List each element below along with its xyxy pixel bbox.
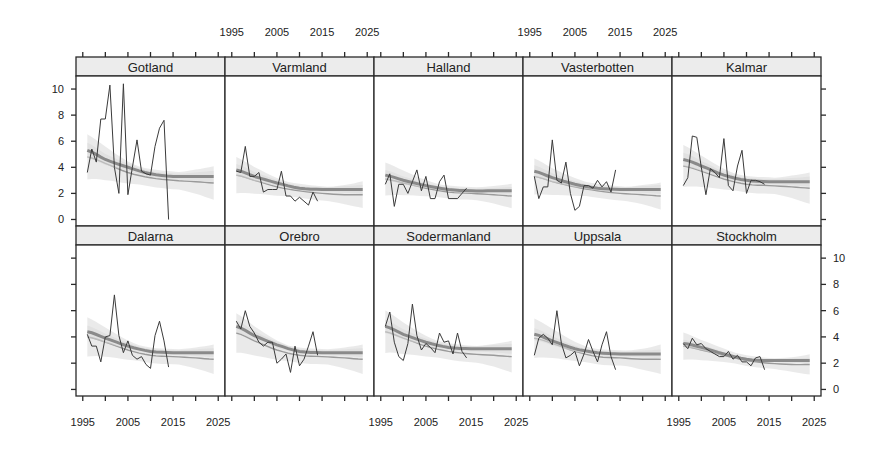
y-tick-label: 10: [833, 252, 845, 264]
panel-title: Kalmar: [726, 60, 768, 75]
panel-stockholm: Stockholm: [672, 226, 821, 396]
y-tick-label: 4: [58, 161, 64, 173]
x-tick-label: 2005: [265, 26, 289, 38]
x-tick-label: 2015: [608, 26, 632, 38]
panel-gotland: Gotland: [76, 57, 225, 226]
panel-title: Sodermanland: [406, 229, 491, 244]
panel-vasterbotten: Vasterbotten: [523, 57, 672, 226]
x-tick-label: 1995: [518, 26, 542, 38]
x-tick-label: 2025: [653, 26, 677, 38]
x-tick-label: 2005: [116, 416, 140, 428]
panel-title: Halland: [426, 60, 470, 75]
x-tick-label: 2005: [563, 26, 587, 38]
panel-varmland: Varmland: [225, 57, 374, 226]
x-tick-label: 2025: [802, 416, 826, 428]
panel-orebro: Orebro: [225, 226, 374, 396]
panel-title: Orebro: [279, 229, 319, 244]
panel-title: Dalarna: [128, 229, 174, 244]
lattice-chart: GotlandVarmlandHallandVasterbottenKalmar…: [0, 0, 896, 454]
panel-dalarna: Dalarna: [76, 226, 225, 396]
panel-title: Uppsala: [574, 229, 622, 244]
x-tick-label: 2015: [459, 416, 483, 428]
panel-halland: Halland: [374, 57, 523, 226]
y-tick-label: 0: [58, 213, 64, 225]
x-tick-label: 2025: [355, 26, 379, 38]
panel-title: Stockholm: [716, 229, 777, 244]
x-tick-label: 2015: [161, 416, 185, 428]
panel-title: Vasterbotten: [561, 60, 634, 75]
x-tick-label: 2025: [504, 416, 528, 428]
x-tick-label: 1995: [667, 416, 691, 428]
x-tick-label: 2005: [712, 416, 736, 428]
y-tick-label: 4: [833, 331, 839, 343]
x-tick-label: 1995: [369, 416, 393, 428]
panel-sodermanland: Sodermanland: [374, 226, 523, 396]
panel-kalmar: Kalmar: [672, 57, 821, 226]
panel-title: Gotland: [128, 60, 174, 75]
x-tick-label: 2015: [310, 26, 334, 38]
x-tick-label: 2015: [757, 416, 781, 428]
y-tick-label: 0: [833, 383, 839, 395]
x-tick-label: 2025: [206, 416, 230, 428]
y-tick-label: 2: [833, 357, 839, 369]
panel-uppsala: Uppsala: [523, 226, 672, 396]
panel-title: Varmland: [272, 60, 327, 75]
y-tick-label: 8: [58, 109, 64, 121]
y-tick-label: 10: [52, 83, 64, 95]
y-tick-label: 8: [833, 278, 839, 290]
y-tick-label: 6: [833, 305, 839, 317]
x-tick-label: 2005: [414, 416, 438, 428]
y-tick-label: 6: [58, 135, 64, 147]
x-tick-label: 1995: [220, 26, 244, 38]
y-tick-label: 2: [58, 187, 64, 199]
x-tick-label: 1995: [71, 416, 95, 428]
